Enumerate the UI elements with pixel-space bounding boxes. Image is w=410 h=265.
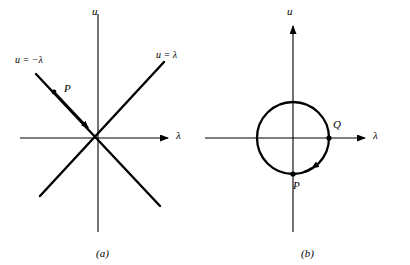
panel-a-caption: (a) (0, 248, 205, 259)
flow-arrow-counterclockwise (304, 168, 312, 172)
panel-a: u λ u = −λ u = λ P (a) (0, 0, 205, 265)
flow-arrow-toward-origin (54, 92, 88, 128)
axis-label-lambda: λ (373, 130, 378, 141)
label-line-u-equals-lambda: u = λ (156, 50, 177, 60)
point-q-marker (326, 135, 331, 140)
panel-a-plot (0, 0, 205, 265)
panel-b: u λ P Q (b) (205, 0, 410, 265)
label-point-p: P (293, 180, 300, 191)
line-u-equals-lambda (40, 62, 164, 196)
axis-label-u: u (287, 6, 293, 17)
label-line-u-equals-minus-lambda: u = −λ (15, 55, 43, 65)
label-point-q: Q (333, 119, 341, 130)
panel-b-caption: (b) (205, 248, 410, 259)
point-p-marker (290, 171, 295, 176)
panel-b-plot (205, 0, 410, 265)
point-p-marker (52, 90, 57, 95)
axis-label-lambda: λ (176, 130, 181, 141)
axis-label-u: u (92, 6, 98, 17)
figure-container: u λ u = −λ u = λ P (a) (0, 0, 410, 265)
label-point-p: P (64, 83, 71, 94)
